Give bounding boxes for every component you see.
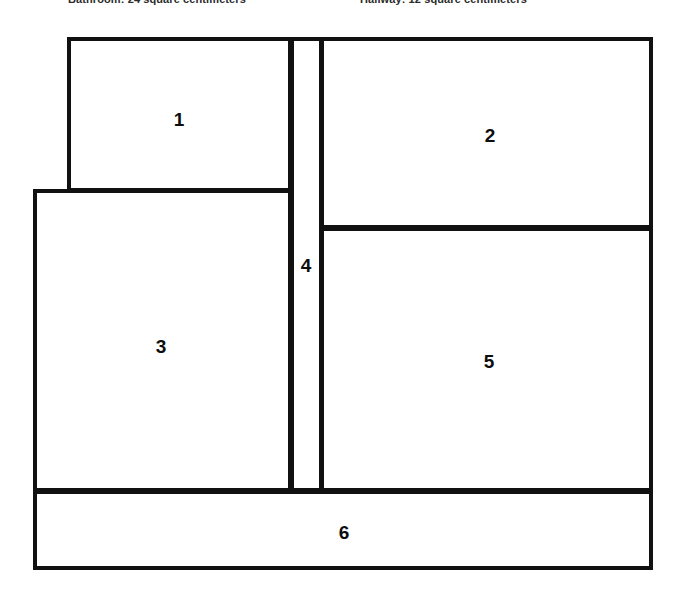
- room-label-1: 1: [174, 110, 185, 129]
- floorplan-diagram: 1 2 3 4 5 6: [0, 0, 681, 610]
- room-label-6: 6: [339, 523, 350, 542]
- room-label-5: 5: [484, 352, 495, 371]
- room-label-4: 4: [301, 256, 312, 275]
- room-label-2: 2: [485, 126, 496, 145]
- room-label-3: 3: [156, 337, 167, 356]
